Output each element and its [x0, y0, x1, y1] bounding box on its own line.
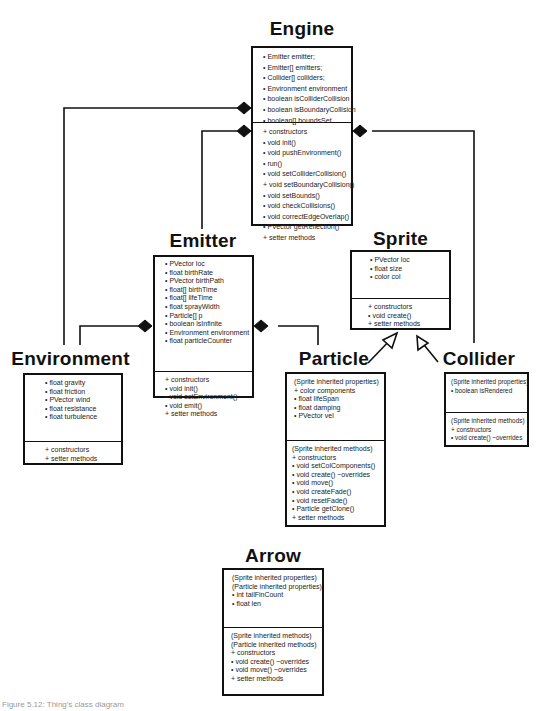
- emitter-class-title: Emitter: [152, 230, 254, 252]
- property: • boolean isInfinite: [165, 320, 246, 329]
- method: • void init(): [263, 138, 345, 149]
- property: • float[] lifeTime: [165, 294, 246, 303]
- sprite-class-title: Sprite: [350, 228, 451, 250]
- method: (Sprite inherited methods): [451, 417, 521, 426]
- diamond-icon: [237, 102, 251, 114]
- method: • void move() ~overrides: [231, 666, 316, 675]
- method: • void init(): [165, 385, 246, 394]
- method: • void setEnvironment(): [165, 393, 246, 402]
- method: + void setBoundaryCollision(): [263, 180, 345, 191]
- environment-class-box: • float gravity • float friction • PVect…: [23, 373, 123, 465]
- property: • float sprayWidth: [165, 303, 246, 312]
- environment-properties: • float gravity • float friction • PVect…: [25, 375, 121, 441]
- environment-methods: + constructors + setter methods: [25, 441, 121, 467]
- method: + constructors: [292, 454, 378, 463]
- engine-class-title: Engine: [251, 18, 353, 40]
- property: • float lifeSpan: [294, 395, 378, 404]
- property: • Environment environment: [263, 84, 345, 95]
- property: • float resistance: [45, 405, 115, 414]
- method: + constructors: [165, 376, 246, 385]
- method: • void create() ~overrides: [292, 471, 378, 480]
- figure-caption: Figure 5.12: Thing's class diagram: [2, 700, 124, 709]
- particle-class-title: Particle: [284, 348, 384, 370]
- property: • Particle[] p: [165, 312, 246, 321]
- method: + setter methods: [292, 514, 378, 523]
- emitter-properties: • PVector loc • float birthRate • PVecto…: [155, 257, 252, 371]
- property: • PVector birthPath: [165, 277, 246, 286]
- collider-class-title: Collider: [434, 348, 524, 370]
- arrow-methods: (Sprite inherited methods) (Particle inh…: [224, 627, 322, 688]
- sprite-class-box: • PVector loc • float size • color col +…: [350, 250, 451, 330]
- method: • void correctEdgeOverlap(): [263, 212, 345, 223]
- arrow-class-title: Arrow: [223, 545, 323, 567]
- property: • float damping: [294, 404, 378, 413]
- property: • float friction: [45, 388, 115, 397]
- sprite-properties: • PVector loc • float size • color col: [352, 252, 449, 298]
- method: • void setColliderCollision(): [263, 169, 345, 180]
- collider-properties: (Sprite inherited properties) • boolean …: [446, 374, 527, 412]
- method: • void move(): [292, 479, 378, 488]
- property: • boolean isRendered: [451, 387, 521, 396]
- property: • int tailFinCount: [232, 591, 316, 600]
- emitter-methods: + constructors • void init() • void setE…: [155, 371, 252, 423]
- method: • void checkCollisions(): [263, 201, 345, 212]
- method: + setter methods: [45, 455, 115, 464]
- property: • float len: [232, 600, 316, 609]
- property: • PVector loc: [370, 256, 443, 265]
- arrow-properties: (Sprite inherited properties) (Particle …: [224, 570, 322, 627]
- method: • void resetFade(): [292, 497, 378, 506]
- method: + setter methods: [368, 320, 443, 329]
- property: + color components: [294, 387, 378, 396]
- method: • run(): [263, 159, 345, 170]
- method: • void setColComponents(): [292, 462, 378, 471]
- particle-class-box: (Sprite inherited properties) + color co…: [285, 372, 386, 527]
- property: • PVector vel: [294, 412, 378, 421]
- method: + setter methods: [165, 410, 246, 419]
- method: + constructors: [45, 446, 115, 455]
- property: (Sprite inherited properties): [294, 378, 378, 387]
- method: • void create() ~overrides: [451, 434, 521, 443]
- emitter-class-box: • PVector loc • float birthRate • PVecto…: [153, 255, 254, 398]
- collider-methods: (Sprite inherited methods) + constructor…: [446, 412, 527, 447]
- method: • void pushEnvironment(): [263, 148, 345, 159]
- property: • PVector loc: [165, 260, 246, 269]
- diamond-icon: [353, 125, 367, 137]
- method: • PVector getReflection(): [263, 222, 345, 233]
- method: (Sprite inherited methods): [231, 632, 316, 641]
- diamond-icon: [138, 320, 152, 332]
- method: + constructors: [368, 303, 443, 312]
- property: • float gravity: [45, 379, 115, 388]
- method: + constructors: [451, 426, 521, 435]
- engine-methods: + constructors • void init() • void push…: [253, 122, 351, 248]
- method: (Particle inherited methods): [231, 641, 316, 650]
- engine-class-box: • Emitter emitter; • Emitter[] emitters;…: [251, 46, 353, 226]
- method: • Particle getClone(): [292, 505, 378, 514]
- property: • float particleCounter: [165, 337, 246, 346]
- property: • boolean isBoundaryCollision: [263, 105, 345, 116]
- method: + setter methods: [263, 233, 345, 244]
- property: • PVector wind: [45, 396, 115, 405]
- method: • void createFade(): [292, 488, 378, 497]
- property: • boolean isColliderCollision: [263, 94, 345, 105]
- particle-methods: (Sprite inherited methods) + constructor…: [287, 440, 384, 526]
- property: (Sprite inherited properties): [232, 574, 316, 583]
- property: • float birthRate: [165, 269, 246, 278]
- property: • Collider[] colliders;: [263, 73, 345, 84]
- method: (Sprite inherited methods): [292, 445, 378, 454]
- collider-class-box: (Sprite inherited properties) • boolean …: [444, 372, 529, 447]
- method: • void emit(): [165, 402, 246, 411]
- property: (Sprite inherited properties): [451, 378, 521, 387]
- diamond-icon: [237, 125, 251, 137]
- method: + constructors: [263, 127, 345, 138]
- environment-class-title: Environment: [8, 348, 133, 370]
- property: • color col: [370, 273, 443, 282]
- property: • Emitter emitter;: [263, 52, 345, 63]
- property: (Particle inherited properties): [232, 583, 316, 592]
- method: • void create(): [368, 312, 443, 321]
- property: • float turbulence: [45, 413, 115, 422]
- property: • float[] birthTime: [165, 286, 246, 295]
- diamond-icon: [254, 320, 268, 332]
- method: • void setBounds(): [263, 191, 345, 202]
- engine-properties: • Emitter emitter; • Emitter[] emitters;…: [253, 48, 351, 122]
- method: + setter methods: [231, 675, 316, 684]
